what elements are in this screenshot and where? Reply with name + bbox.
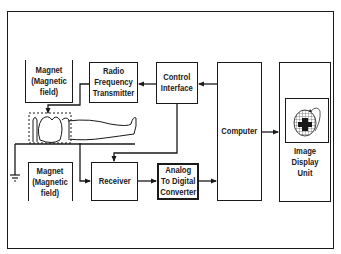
magnet-bottom-block: Magnet (Magnetic field): [28, 162, 73, 201]
image-display-label: Image Display Unit: [291, 146, 318, 179]
rf-transmitter-label: Radio Frequency Transmitter: [93, 66, 135, 99]
control-interface-label: Control Interface: [161, 72, 193, 94]
computer-block: Computer: [217, 62, 262, 201]
display-screen: [285, 98, 329, 143]
brain-scan-icon: [287, 101, 327, 141]
rf-transmitter-block: Radio Frequency Transmitter: [89, 62, 138, 103]
ground-icon: [10, 175, 20, 181]
magnet-bottom-label: Magnet (Magnetic field): [33, 166, 69, 199]
adc-label: Analog To Digital Converter: [160, 165, 196, 198]
magnet-top-label: Magnet (Magnetic field): [31, 65, 67, 98]
receiver-label: Receiver: [99, 176, 131, 187]
magnet-top-block: Magnet (Magnetic field): [25, 60, 73, 103]
patient-figure-icon: [29, 113, 136, 143]
receiver-block: Receiver: [91, 162, 138, 201]
computer-label: Computer: [221, 126, 257, 137]
control-interface-block: Control Interface: [156, 62, 198, 104]
adc-block: Analog To Digital Converter: [157, 163, 199, 200]
